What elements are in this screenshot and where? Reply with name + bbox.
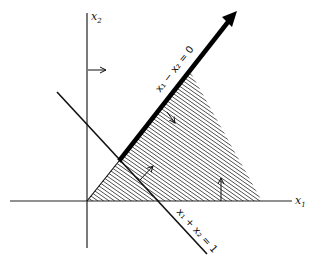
lp-diagram: x2 x1 x₁ − x₂ = 0 x₁ + x₂ = 1 — [0, 0, 314, 263]
x2-axis-label: x2 — [91, 10, 102, 25]
label-x1-plus-x2: x₁ + x₂ = 1 — [175, 206, 220, 255]
x1-axis-label: x1 — [295, 194, 306, 209]
